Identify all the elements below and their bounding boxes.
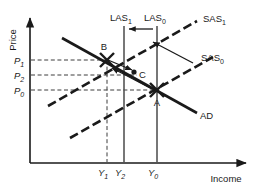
las1-curve-label: LAS1 (110, 12, 132, 25)
price-tick-labels: P1 P2 P0 (14, 55, 24, 98)
income-tick-y0: Y0 (148, 167, 158, 180)
las0-curve-label: LAS0 (144, 12, 166, 25)
sas-curves (48, 21, 213, 138)
sas1-curve-label: SAS1 (203, 13, 226, 26)
y-axis-label: Price (7, 29, 18, 51)
price-tick-p0: P0 (14, 85, 24, 98)
annotation-arrows (108, 29, 193, 89)
income-tick-labels: Y1 Y2 Y0 (98, 167, 158, 180)
sas0-curve-label: SAS0 (201, 52, 224, 65)
ad-curve[interactable] (62, 38, 197, 113)
point-label-a: A (154, 97, 161, 108)
x-axis-label: Income (210, 173, 241, 184)
sas-shift-arrow (153, 42, 193, 63)
point-label-b: B (101, 41, 107, 52)
point-c-marker (131, 69, 136, 74)
price-tick-p2: P2 (14, 70, 24, 83)
point-label-c: C (139, 69, 146, 80)
income-tick-y1: Y1 (98, 167, 108, 180)
income-tick-y2: Y2 (115, 167, 125, 180)
sas1-curve[interactable] (48, 21, 197, 106)
figure-canvas: Price Income P1 P2 P0 Y1 Y2 Y0 (0, 0, 263, 192)
as-ad-diagram: Price Income P1 P2 P0 Y1 Y2 Y0 (0, 0, 263, 192)
price-tick-p1: P1 (14, 55, 24, 68)
ad-curve-label: AD (200, 110, 213, 121)
